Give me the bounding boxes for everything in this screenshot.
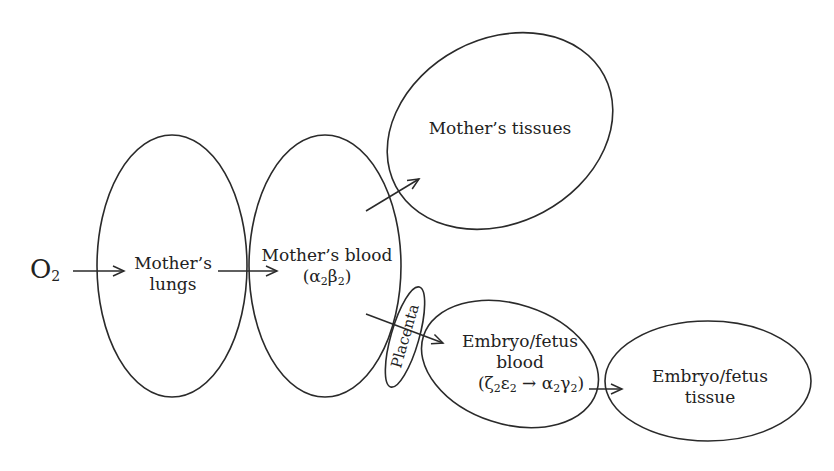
embryo-tissue-label: Embryo/fetus tissue [635, 366, 785, 408]
mother-blood-label: Mother’s blood (α2β2) [252, 245, 402, 287]
lungs-label-line1: Mother’s [130, 253, 216, 274]
formula-sub: 2 [494, 382, 501, 395]
formula-part: (ζ [478, 373, 494, 393]
oxygen-label: O2 [30, 254, 60, 284]
lungs-label: Mother’s lungs [130, 253, 216, 295]
mother-tissues-label: Mother’s tissues [420, 118, 580, 139]
embryo-blood-label-line2: blood [440, 352, 600, 373]
formula-sub: 2 [321, 275, 328, 288]
formula-part: → α [517, 373, 554, 393]
formula-part: (α [303, 266, 321, 286]
formula-part: ε [501, 373, 510, 393]
embryo-tissue-label-line1: Embryo/fetus [635, 366, 785, 387]
formula-part: ) [345, 266, 352, 286]
mother-blood-label-line1: Mother’s blood [252, 245, 402, 266]
mother-tissues-text: Mother’s tissues [420, 118, 580, 139]
formula-part: ) [577, 373, 584, 393]
oxygen-transport-diagram: O2 Mother’s lungs Mother’s blood (α2β2) … [0, 0, 834, 471]
embryo-blood-label: Embryo/fetus blood (ζ2ε2 → α2γ2) [440, 331, 600, 394]
embryo-blood-formula: (ζ2ε2 → α2γ2) [440, 373, 600, 394]
embryo-blood-label-line1: Embryo/fetus [440, 331, 600, 352]
formula-sub: 2 [510, 382, 517, 395]
oxygen-subscript: 2 [51, 268, 60, 284]
lungs-label-line2: lungs [130, 274, 216, 295]
formula-sub: 2 [338, 275, 345, 288]
formula-part: β [328, 266, 338, 286]
formula-part: γ [560, 373, 570, 393]
mother-blood-formula: (α2β2) [252, 266, 402, 287]
oxygen-symbol: O [30, 254, 51, 284]
embryo-tissue-label-line2: tissue [635, 387, 785, 408]
